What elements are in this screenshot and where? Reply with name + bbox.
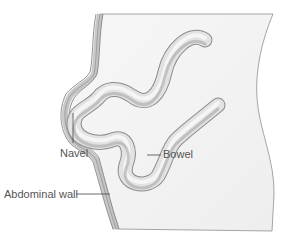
abdominal-wall-label: Abdominal wall	[4, 188, 78, 200]
bowel-label: Bowel	[163, 148, 193, 160]
hernia-illustration	[0, 0, 292, 244]
navel-label: Navel	[60, 147, 88, 159]
